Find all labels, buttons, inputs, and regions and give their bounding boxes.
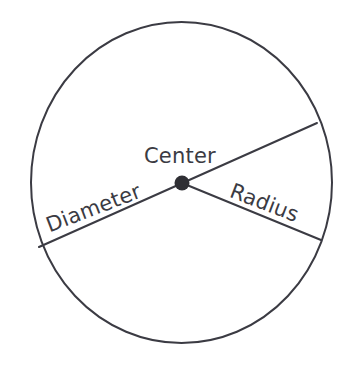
circle-diagram-canvas — [0, 0, 356, 372]
label-center: Center — [144, 144, 216, 168]
center-point-dot — [175, 176, 190, 191]
circle-diagram: Center Radius Diameter — [0, 0, 356, 372]
